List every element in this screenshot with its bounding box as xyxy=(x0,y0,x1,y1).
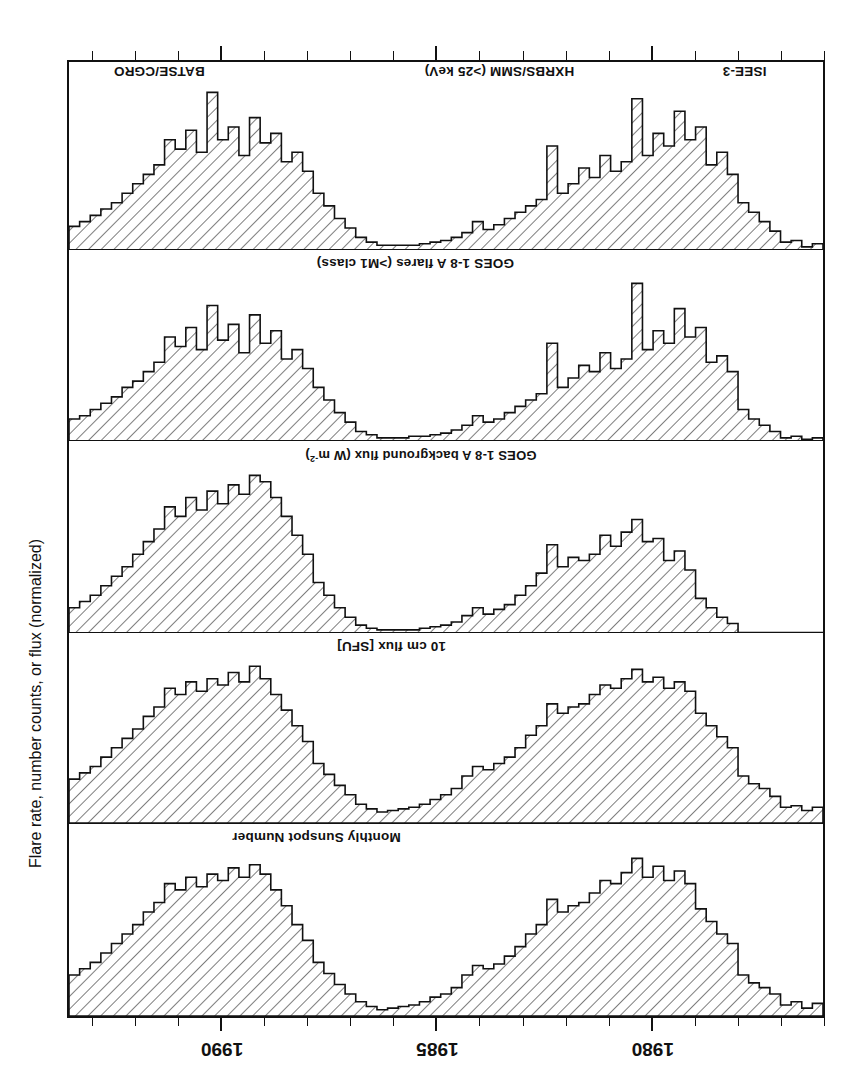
tick-1985 xyxy=(435,46,437,60)
tick-1980 xyxy=(651,46,653,60)
histogram-goes-background xyxy=(69,441,823,633)
histogram-outline-sunspot xyxy=(69,858,823,1016)
tick-1982 xyxy=(566,51,567,60)
panel-separator-1 xyxy=(69,823,823,824)
tick-1976 xyxy=(824,1018,825,1026)
scan-edge-artifact xyxy=(0,0,863,8)
tick-1986 xyxy=(393,1018,394,1026)
panel-label-sunspot: Monthly Sunspot Number xyxy=(232,830,401,845)
tick-1981 xyxy=(609,1018,610,1026)
y-axis-title: Flare rate, number counts, or flux (norm… xyxy=(27,539,45,868)
histogram-sunspot xyxy=(69,824,823,1016)
panel-sunspot: Monthly Sunspot Number xyxy=(69,824,823,1016)
year-tick-label-1985: 1985 xyxy=(416,1038,458,1060)
tick-1977 xyxy=(781,1018,782,1026)
tick-1988 xyxy=(307,1018,308,1026)
tick-1983 xyxy=(523,51,524,60)
tick-1987 xyxy=(350,1018,351,1026)
histogram-goes-flares xyxy=(69,250,823,442)
tick-1982 xyxy=(566,1018,567,1026)
histogram-outline-goes-flares xyxy=(69,284,823,442)
solar-activity-figure: 198019851990 Monthly Sunspot Number10 cm… xyxy=(0,0,863,1080)
panel-goes-background: GOES 1-8 A background flux (W m-2) xyxy=(69,441,823,633)
tick-1979 xyxy=(695,51,696,60)
tick-1991 xyxy=(178,51,179,60)
tick-1993 xyxy=(92,1018,93,1026)
panel-label-exponent-goes-background: -2 xyxy=(310,454,318,464)
tick-1988 xyxy=(307,51,308,60)
year-tick-label-1980: 1980 xyxy=(632,1038,674,1060)
tick-1978 xyxy=(738,1018,739,1026)
tick-1987 xyxy=(350,51,351,60)
tick-1981 xyxy=(609,51,610,60)
tick-1991 xyxy=(178,1018,179,1026)
histogram-outline-goes-background xyxy=(69,475,823,633)
histogram-radio-flux xyxy=(69,633,823,824)
tick-1986 xyxy=(393,51,394,60)
tick-1989 xyxy=(264,51,265,60)
x-axis-top-ticks xyxy=(67,1018,825,1032)
instrument-label-isee-3: ISEE-3 xyxy=(722,64,766,79)
plot-frame: Monthly Sunspot Number10 cm flux [SFU]GO… xyxy=(67,60,825,1018)
panel-label-radio-flux: 10 cm flux [SFU] xyxy=(337,639,446,654)
tick-1979 xyxy=(695,1018,696,1026)
panel-separator-4 xyxy=(69,249,823,250)
year-tick-label-1990: 1990 xyxy=(201,1038,243,1060)
histogram-outline-radio-flux xyxy=(69,667,823,824)
panel-separator-3 xyxy=(69,440,823,441)
tick-1984 xyxy=(479,1018,480,1026)
tick-1989 xyxy=(264,1018,265,1026)
tick-1977 xyxy=(781,51,782,60)
tick-1992 xyxy=(135,51,136,60)
histogram-hard-xray xyxy=(69,58,823,250)
panel-goes-flares: GOES 1-8 A flares (>M1 class) xyxy=(69,250,823,442)
panel-label-goes-flares: GOES 1-8 A flares (>M1 class) xyxy=(317,256,514,271)
panel-label-goes-background: GOES 1-8 A background flux (W m-2) xyxy=(305,447,536,463)
tick-1990 xyxy=(220,1018,222,1031)
y-axis-title-wrapper: Flare rate, number counts, or flux (norm… xyxy=(7,60,57,1018)
panel-separator-2 xyxy=(69,632,823,633)
histogram-outline-hard-xray xyxy=(69,92,823,250)
tick-1984 xyxy=(479,51,480,60)
tick-1992 xyxy=(135,1018,136,1026)
panel-radio-flux: 10 cm flux [SFU] xyxy=(69,633,823,825)
panel-hard-xray: ISEE-3HXRBS/SMM (>25 keV)BATSE/CGRO xyxy=(69,58,823,250)
x-axis-bottom-ticks xyxy=(67,44,825,60)
tick-1990 xyxy=(220,46,222,60)
instrument-label-batse-cgro: BATSE/CGRO xyxy=(114,64,205,79)
tick-1983 xyxy=(523,1018,524,1026)
instrument-label-hxrbs-smm-25-kev: HXRBS/SMM (>25 keV) xyxy=(424,64,574,79)
tick-1976 xyxy=(824,51,825,60)
tick-1985 xyxy=(435,1018,437,1031)
tick-1980 xyxy=(651,1018,653,1031)
tick-1993 xyxy=(92,51,93,60)
tick-1978 xyxy=(738,51,739,60)
